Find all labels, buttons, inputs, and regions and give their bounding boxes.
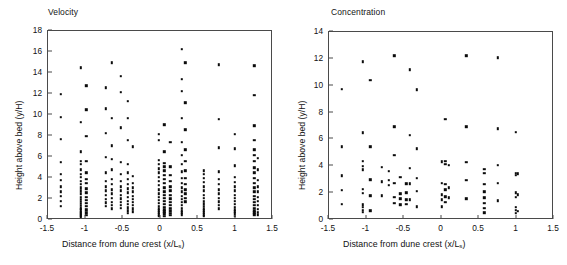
- x-tick-mark: [515, 215, 516, 219]
- data-point: [126, 203, 128, 205]
- concentration-panel: Concentration Height above bed (y/H) Dis…: [283, 0, 566, 265]
- data-point: [483, 202, 485, 204]
- data-point: [218, 64, 220, 66]
- data-point: [409, 134, 411, 136]
- data-point: [158, 167, 160, 169]
- data-point: [180, 163, 182, 165]
- data-point: [111, 178, 113, 180]
- data-point: [184, 149, 186, 151]
- data-point: [388, 170, 390, 172]
- y-tick-mark: [329, 165, 333, 166]
- data-point: [163, 197, 165, 199]
- data-point: [126, 212, 128, 214]
- data-point: [234, 181, 236, 183]
- y-tick-label: 8: [23, 130, 42, 140]
- data-point: [163, 151, 165, 153]
- data-point: [440, 199, 442, 201]
- data-point: [444, 183, 446, 185]
- data-point: [80, 121, 82, 123]
- data-point: [218, 178, 220, 180]
- data-point: [369, 146, 371, 148]
- x-tick-label: -0.5: [396, 223, 410, 233]
- data-point: [180, 141, 182, 143]
- velocity-panel: Velocity Height above bed (y/H) Distance…: [0, 0, 283, 265]
- data-point: [158, 163, 160, 165]
- data-point: [132, 207, 134, 209]
- data-point: [180, 201, 182, 203]
- y-tick-label: 8: [304, 107, 323, 117]
- data-point: [120, 185, 122, 187]
- data-point: [416, 89, 418, 91]
- data-point: [163, 178, 165, 180]
- data-point: [158, 176, 160, 178]
- x-tick-mark: [365, 215, 366, 219]
- data-point: [369, 79, 371, 81]
- data-point: [483, 172, 485, 174]
- data-point: [60, 179, 62, 181]
- data-point: [253, 154, 255, 156]
- data-point: [483, 183, 485, 185]
- data-point: [465, 54, 467, 56]
- data-point: [169, 165, 171, 167]
- x-tick-mark: [159, 215, 160, 219]
- data-point: [257, 169, 259, 171]
- data-point: [184, 170, 186, 172]
- data-point: [483, 211, 485, 213]
- y-tick-label: 12: [304, 53, 323, 63]
- data-point: [341, 146, 343, 148]
- data-point: [120, 91, 122, 93]
- data-point: [444, 160, 446, 162]
- data-point: [105, 156, 107, 158]
- y-tick-mark: [48, 51, 52, 52]
- data-point: [380, 166, 382, 168]
- data-point: [111, 201, 113, 203]
- data-point: [163, 182, 165, 184]
- data-point: [132, 198, 134, 200]
- data-point: [60, 185, 62, 187]
- data-point: [180, 78, 182, 80]
- data-point: [85, 208, 87, 210]
- data-point: [257, 179, 259, 181]
- y-tick-label: 16: [23, 46, 42, 56]
- data-point: [444, 163, 446, 165]
- data-point: [234, 185, 236, 187]
- data-point: [163, 194, 165, 196]
- x-tick-label: 0: [157, 223, 162, 233]
- data-point: [180, 198, 182, 200]
- data-point: [120, 194, 122, 196]
- concentration-panel-title: Concentration: [331, 7, 385, 17]
- data-point: [234, 197, 236, 199]
- data-point: [163, 123, 165, 125]
- data-point: [257, 191, 259, 193]
- data-point: [60, 138, 62, 140]
- x-tick-label: 1.5: [547, 223, 559, 233]
- data-point: [105, 198, 107, 200]
- data-point: [180, 177, 182, 179]
- velocity-x-axis-title: Distance from dune crest (x/Ls): [62, 239, 184, 249]
- y-tick-mark: [48, 219, 52, 220]
- data-point: [80, 67, 82, 69]
- data-point: [85, 205, 87, 207]
- data-point: [253, 186, 255, 188]
- data-point: [85, 182, 87, 184]
- data-point: [85, 135, 87, 137]
- data-point: [497, 128, 499, 130]
- data-point: [132, 191, 134, 193]
- x-tick-mark: [272, 215, 273, 219]
- velocity-x-axis-title-close: ): [182, 239, 185, 249]
- data-point: [85, 199, 87, 201]
- y-tick-label: 18: [23, 25, 42, 35]
- data-point: [218, 204, 220, 206]
- y-tick-label: 10: [23, 109, 42, 119]
- data-point: [85, 172, 87, 174]
- data-point: [184, 193, 186, 195]
- data-point: [85, 187, 87, 189]
- data-point: [163, 170, 165, 172]
- data-point: [80, 180, 82, 182]
- data-point: [483, 197, 485, 199]
- data-point: [253, 182, 255, 184]
- data-point: [483, 207, 485, 209]
- data-point: [80, 160, 82, 162]
- x-tick-label: 0: [438, 223, 443, 233]
- data-point: [218, 197, 220, 199]
